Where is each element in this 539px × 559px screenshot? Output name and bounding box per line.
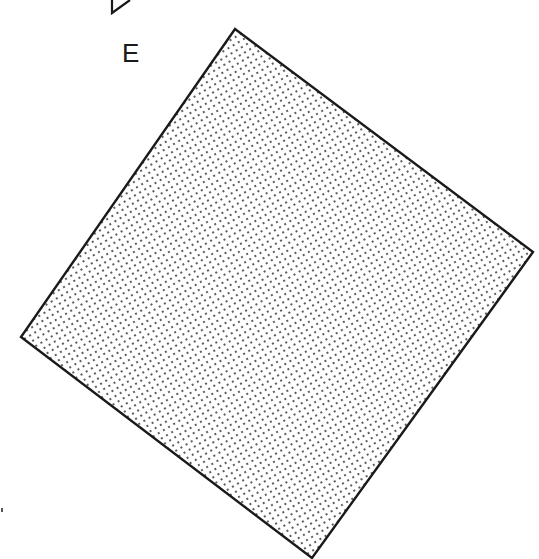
triangle-pointer-icon xyxy=(112,0,130,13)
diagram-canvas xyxy=(0,0,539,559)
figure-label: E xyxy=(122,40,139,66)
scan-artifact xyxy=(1,508,3,512)
stippled-square xyxy=(21,29,533,558)
